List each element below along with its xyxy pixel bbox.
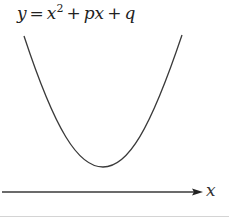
- equation-equals: =: [27, 3, 47, 23]
- equation-q: q: [124, 3, 135, 23]
- equation-plus-2: +: [104, 3, 124, 23]
- parabola-equation: y=x2+px+q: [17, 3, 135, 23]
- equation-x: x: [47, 3, 57, 23]
- diagram-graphics: [0, 0, 229, 218]
- x-axis-label: x: [206, 180, 216, 200]
- bottom-divider: [0, 216, 229, 217]
- equation-px: px: [84, 3, 104, 23]
- equation-lhs: y: [17, 3, 27, 23]
- equation-plus-1: +: [63, 3, 83, 23]
- parabola-curve: [24, 35, 182, 167]
- parabola-diagram: y=x2+px+q x: [0, 0, 229, 218]
